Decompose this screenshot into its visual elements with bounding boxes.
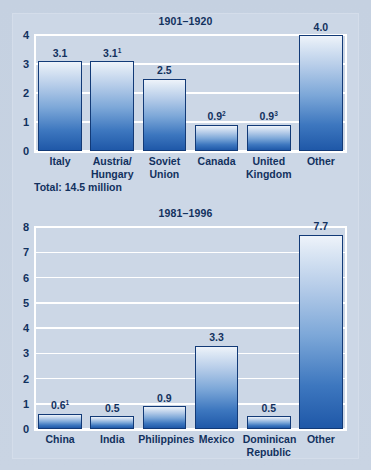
bar-value-label: 2.5	[138, 65, 190, 76]
category-label: Dominican Republic	[243, 433, 295, 458]
y-tick-label: 7	[23, 247, 29, 258]
bar-value-label: 0.5	[243, 403, 295, 414]
bar-series: 3.13.112.50.920.934.0	[34, 35, 347, 151]
y-tick-label: 0	[23, 424, 29, 435]
y-tick-label: 8	[23, 222, 29, 233]
bar-slot: 7.7	[295, 227, 347, 429]
y-tick-label: 5	[23, 297, 29, 308]
category-label: Other	[295, 433, 347, 446]
y-tick-label: 1	[23, 117, 29, 128]
bar-slot: 0.93	[243, 35, 295, 151]
bar	[299, 35, 343, 151]
y-tick-label: 2	[23, 88, 29, 99]
bar-value-label: 4.0	[295, 22, 347, 33]
chart-title: 1981–1996	[12, 207, 359, 219]
bar-slot: 4.0	[295, 35, 347, 151]
bar-slot: 3.11	[86, 35, 138, 151]
category-label: Canada	[191, 155, 243, 168]
category-label: Philippines	[138, 433, 190, 446]
bar-slot: 0.5	[86, 227, 138, 429]
bar	[143, 406, 187, 429]
figure-panel: 1901–1920 01234 3.13.112.50.920.934.0 It…	[12, 13, 359, 459]
bar	[143, 79, 187, 152]
y-tick-label: 4	[23, 323, 29, 334]
category-label: Other	[295, 155, 347, 168]
category-label: China	[34, 433, 86, 446]
y-tick-label: 2	[23, 373, 29, 384]
footnote-marker: 2	[222, 110, 226, 117]
bar-slot: 3.3	[191, 227, 243, 429]
y-tick-label: 4	[23, 30, 29, 41]
plot-area: 01234 3.13.112.50.920.934.0	[34, 35, 347, 151]
category-label: Mexico	[191, 433, 243, 446]
category-label: Italy	[34, 155, 86, 168]
bar-value-label: 3.11	[86, 48, 138, 59]
footnote-marker: 1	[66, 399, 70, 406]
y-tick-label: 3	[23, 348, 29, 359]
y-tick-label: 1	[23, 398, 29, 409]
bar	[299, 235, 343, 429]
bar-value-label: 0.9	[138, 393, 190, 404]
bar-slot: 0.61	[34, 227, 86, 429]
figure-background: 1901–1920 01234 3.13.112.50.920.934.0 It…	[0, 0, 371, 470]
bar-value-label: 7.7	[295, 221, 347, 232]
footnote-marker: 3	[274, 110, 278, 117]
bar-value-label: 0.93	[243, 111, 295, 122]
bar	[247, 125, 291, 151]
bar	[38, 61, 82, 151]
bar-value-label: 0.61	[34, 400, 86, 411]
bar	[90, 416, 134, 429]
bar-value-label: 0.92	[191, 111, 243, 122]
total-note: Total: 14.5 million	[34, 181, 122, 193]
category-label: Austria/ Hungary	[86, 155, 138, 180]
bar	[38, 414, 82, 429]
bar-slot: 2.5	[138, 35, 190, 151]
bar-slot: 3.1	[34, 35, 86, 151]
bar-slot: 0.92	[191, 35, 243, 151]
bar-value-label: 3.1	[34, 48, 86, 59]
plot-area: 012345678 0.610.50.93.30.57.7	[34, 227, 347, 429]
y-tick-label: 0	[23, 146, 29, 157]
y-tick-label: 6	[23, 272, 29, 283]
footnote-marker: 1	[118, 46, 122, 53]
bar-slot: 0.9	[138, 227, 190, 429]
category-label: Soviet Union	[138, 155, 190, 180]
bar	[195, 125, 239, 151]
bar-value-label: 3.3	[191, 332, 243, 343]
category-label: United Kingdom	[243, 155, 295, 180]
y-tick-label: 3	[23, 59, 29, 70]
bar	[247, 416, 291, 429]
bar	[90, 61, 134, 151]
bar-value-label: 0.5	[86, 403, 138, 414]
bar-slot: 0.5	[243, 227, 295, 429]
category-label: India	[86, 433, 138, 446]
bar	[195, 346, 239, 429]
bar-series: 0.610.50.93.30.57.7	[34, 227, 347, 429]
